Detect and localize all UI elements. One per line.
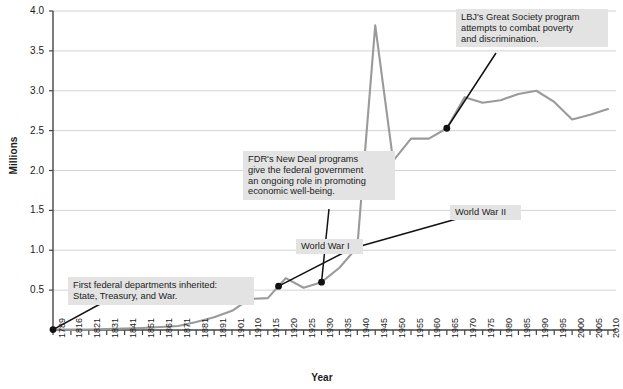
- x-tick-label: 1950: [397, 318, 407, 338]
- y-tick-label: 1.0: [12, 244, 44, 255]
- x-tick-label: 1816: [74, 318, 84, 338]
- x-tick-label: 1935: [343, 318, 353, 338]
- annotation-leader-line: [357, 218, 460, 247]
- x-tick-label: 1980: [504, 318, 514, 338]
- federal-employment-line-chart: Millions Year 4.03.53.02.52.01.51.00.5 1…: [0, 0, 623, 389]
- x-tick-label: 1995: [558, 318, 568, 338]
- x-tick-label: 1945: [379, 318, 389, 338]
- annotation-point-marker: [50, 326, 57, 333]
- x-tick-label: 1915: [271, 318, 281, 338]
- annotation-leader-line: [279, 252, 345, 286]
- x-tick-label: 1881: [200, 318, 210, 338]
- y-tick-label: 2.5: [12, 125, 44, 136]
- x-tick-label: 1901: [236, 318, 246, 338]
- x-tick-label: 1871: [182, 318, 192, 338]
- x-tick-label: 1955: [415, 318, 425, 338]
- y-tick-label: 2.0: [12, 165, 44, 176]
- x-tick-label: 1930: [325, 318, 335, 338]
- annotation-world-war-ii: World War II: [450, 205, 521, 220]
- y-tick-label: 3.0: [12, 85, 44, 96]
- x-tick-label: 1965: [450, 318, 460, 338]
- x-tick-label: 1970: [468, 318, 478, 338]
- x-tick-label: 1861: [164, 318, 174, 338]
- x-tick-label: 1841: [128, 318, 138, 338]
- x-tick-label: 1831: [110, 318, 120, 338]
- x-tick-label: 2010: [611, 318, 621, 338]
- x-tick-label: 1891: [218, 318, 228, 338]
- x-tick-label: 1985: [522, 318, 532, 338]
- y-tick-label: 0.5: [12, 284, 44, 295]
- x-tick-label: 2000: [576, 318, 586, 338]
- x-tick-label: 1910: [253, 318, 263, 338]
- y-tick-label: 3.5: [12, 45, 44, 56]
- x-tick-label: 1851: [146, 318, 156, 338]
- x-tick-label: 1990: [540, 318, 550, 338]
- x-tick-label: 1940: [361, 318, 371, 338]
- x-tick-label: 1920: [289, 318, 299, 338]
- x-tick-label: 1960: [432, 318, 442, 338]
- x-tick-label: 1789: [57, 318, 67, 338]
- annotation-lbj-great-society: LBJ's Great Society program attempts to …: [456, 9, 608, 47]
- annotation-world-war-i: World War I: [296, 239, 363, 254]
- x-tick-label: 1821: [92, 318, 102, 338]
- x-tick-label: 1925: [307, 318, 317, 338]
- x-axis-title: Year: [292, 372, 352, 383]
- x-tick-label: 1975: [486, 318, 496, 338]
- x-tick-label: 2005: [594, 318, 604, 338]
- y-tick-label: 4.0: [12, 5, 44, 16]
- annotation-point-marker: [275, 283, 282, 290]
- annotation-first-federal-departments: First federal departments inherited: Sta…: [68, 277, 254, 305]
- annotation-fdr-new-deal: FDR's New Deal programs give the federal…: [243, 151, 395, 200]
- annotation-point-marker: [318, 279, 325, 286]
- annotation-point-marker: [443, 125, 450, 132]
- y-tick-label: 1.5: [12, 204, 44, 215]
